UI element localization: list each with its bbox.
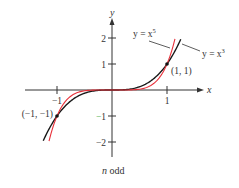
point-label: (−1, −1) (22, 109, 53, 120)
chart-caption: n odd (102, 165, 125, 176)
y-axis-label: y (109, 7, 115, 18)
x-tick-label: −1 (52, 96, 62, 106)
y-tick-label: −1 (96, 112, 106, 122)
x5-curve-label: y = x5 (133, 27, 156, 39)
y-axis-arrow-icon (110, 18, 115, 25)
x-axis-label: x (206, 84, 212, 95)
intersection-point (165, 62, 169, 66)
x5-leader-line (149, 41, 170, 48)
y-tick-label: 2 (101, 34, 106, 44)
chart-canvas: x y −11 21−1−2 y = x5 y = x3 (1, 1)(−1, … (0, 0, 239, 188)
point-label: (1, 1) (171, 66, 192, 77)
y-tick-label: −2 (96, 138, 106, 148)
x-axis-arrow-icon (197, 88, 204, 93)
y-tick-label: 1 (101, 60, 106, 70)
x-tick-label: 1 (165, 96, 170, 106)
intersection-point (55, 114, 59, 118)
x3-leader-line (182, 44, 200, 51)
x3-curve-label: y = x3 (202, 47, 225, 59)
